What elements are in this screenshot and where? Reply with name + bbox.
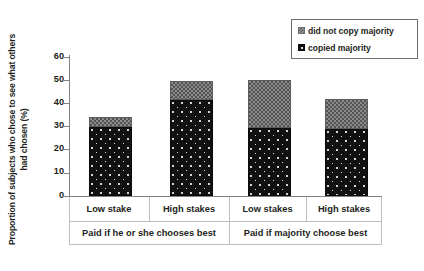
table-divider-3 xyxy=(306,197,307,221)
black-dotted-swatch-icon xyxy=(298,44,305,51)
category-row: Low stake High stakes Low stakes High st… xyxy=(69,197,382,221)
segment-copied-majority xyxy=(325,129,368,196)
table-bottom-border xyxy=(69,244,382,245)
group-row: Paid if he or she chooses best Paid if m… xyxy=(69,221,382,245)
bar-high-stakes-majority xyxy=(325,99,368,196)
chart-legend: did not copy majority copied majority xyxy=(291,19,418,59)
legend-item-did-not-copy-majority: did not copy majority xyxy=(298,24,394,37)
y-tick-label-40: 40 xyxy=(40,98,64,107)
y-tick-label-20: 20 xyxy=(40,144,64,153)
y-tick-label-30: 30 xyxy=(40,121,64,130)
segment-did-not-copy-majority xyxy=(325,99,368,129)
y-tick-label-60: 60 xyxy=(40,52,64,61)
category-label-0: Low stake xyxy=(69,197,149,221)
bar-high-stakes-individual xyxy=(170,81,213,196)
y-tick-label-10: 10 xyxy=(40,167,64,176)
category-label-2: Low stakes xyxy=(229,197,306,221)
legend-label-0: did not copy majority xyxy=(308,26,394,36)
segment-did-not-copy-majority xyxy=(170,81,213,100)
y-axis-title-text: Proportion of subjects who chose to see … xyxy=(7,14,30,266)
gray-checker-swatch-icon xyxy=(298,27,305,34)
segment-did-not-copy-majority xyxy=(89,117,132,126)
y-tick-label-0: 0 xyxy=(40,191,64,200)
y-tick-label-50: 50 xyxy=(40,75,64,84)
table-divider-1 xyxy=(149,197,150,221)
segment-copied-majority xyxy=(248,128,291,196)
stacked-bar-chart: Proportion of subjects who chose to see … xyxy=(0,0,424,271)
segment-copied-majority xyxy=(89,127,132,197)
segment-copied-majority xyxy=(170,100,213,196)
y-axis-tick-labels: 60 50 40 30 20 10 0 xyxy=(36,0,64,271)
table-row-divider xyxy=(69,221,382,222)
group-label-1: Paid if majority choose best xyxy=(229,221,382,245)
category-label-1: High stakes xyxy=(149,197,229,221)
bar-low-stake-individual xyxy=(89,117,132,196)
y-axis-title: Proportion of subjects who chose to see … xyxy=(0,0,34,271)
legend-item-copied-majority: copied majority xyxy=(298,41,371,54)
bar-low-stakes-majority xyxy=(248,79,291,196)
group-label-0: Paid if he or she chooses best xyxy=(69,221,229,245)
legend-label-1: copied majority xyxy=(308,43,371,53)
plot-area xyxy=(70,57,382,196)
category-label-3: High stakes xyxy=(306,197,382,221)
category-label-table: Low stake High stakes Low stakes High st… xyxy=(69,197,382,245)
segment-did-not-copy-majority xyxy=(248,80,291,128)
